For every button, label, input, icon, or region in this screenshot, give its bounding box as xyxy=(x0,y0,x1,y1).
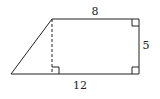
right-angle-marker-bottom-right xyxy=(132,67,139,74)
right-angle-marker-bottom-dashed xyxy=(52,67,59,74)
label-bottom: 12 xyxy=(73,79,87,92)
label-top: 8 xyxy=(92,5,99,18)
label-right: 5 xyxy=(143,39,150,52)
right-angle-marker-top-right xyxy=(132,19,139,26)
trapezoid-diagram: 8 5 12 xyxy=(0,0,160,99)
trapezoid-outline xyxy=(11,19,139,74)
